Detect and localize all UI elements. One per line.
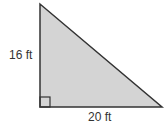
triangle-svg bbox=[0, 0, 166, 129]
triangle-shape bbox=[40, 4, 162, 107]
base-label: 20 ft bbox=[88, 110, 111, 124]
height-label: 16 ft bbox=[9, 48, 32, 62]
